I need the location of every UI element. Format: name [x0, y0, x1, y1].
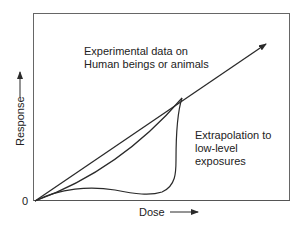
experimental-annotation-line1: Experimental data on: [84, 45, 188, 57]
plot-frame: [34, 14, 290, 201]
experimental-annotation-line2: Human beings or animals: [84, 58, 209, 70]
extrapolation-annotation-line1: Extrapolation to: [195, 129, 271, 141]
x-axis-label: Dose: [139, 206, 165, 218]
origin-label: 0: [22, 195, 28, 207]
y-axis-label: Response: [14, 96, 26, 146]
extrapolation-annotation-line3: exposures: [195, 155, 246, 167]
dose-response-diagram: 0 Experimental data on Human beings or a…: [0, 0, 304, 228]
extrapolation-annotation-line2: low-level: [195, 142, 238, 154]
